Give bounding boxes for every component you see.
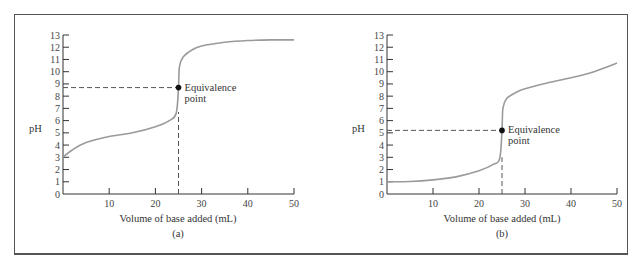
x-tick-label: 40 [566,198,576,209]
chart-b: 012345678910111213 1020304050 Equivalenc… [352,30,622,241]
y-tick-label: 2 [55,164,60,175]
x-tick-label: 30 [197,198,207,209]
y-tick-label: 8 [55,91,60,102]
x-tick-label: 50 [289,198,299,209]
equivalence-label-a-line2: point [185,93,207,104]
caption-a: (a) [172,228,184,240]
x-tick-label: 10 [428,198,438,209]
y-tick-label: 13 [374,30,384,41]
y-tick-label: 3 [379,152,384,163]
y-tick-label: 5 [55,127,60,138]
y-tick-label: 0 [55,189,60,200]
x-axis-title-b: Volume of base added (mL) [443,213,561,225]
chart-a: 012345678910111213 1020304050 Equivalenc… [29,30,299,241]
titration-curve-b [387,63,617,182]
y-tick-label: 6 [55,115,60,126]
y-tick-label: 11 [374,54,384,65]
titration-curves-figure: 012345678910111213 1020304050 Equivalenc… [0,0,643,267]
y-tick-label: 12 [50,42,60,53]
x-tick-label: 20 [150,198,160,209]
y-tick-label: 7 [55,103,60,114]
x-tick-label: 40 [243,198,253,209]
y-tick-label: 4 [55,140,60,151]
y-tick-label: 13 [50,30,60,41]
y-tick-label: 11 [50,54,60,65]
y-tick-label: 8 [379,91,384,102]
y-tick-label: 6 [379,115,384,126]
y-tick-label: 10 [50,66,60,77]
x-tick-label: 50 [612,198,622,209]
y-tick-label: 4 [379,140,384,151]
y-tick-label: 7 [379,103,384,114]
y-tick-label: 5 [379,127,384,138]
x-axis-title-a: Volume of base added (mL) [119,213,237,225]
y-tick-label: 2 [379,164,384,175]
titration-curve-a [63,40,294,157]
y-ticks-b: 012345678910111213 [374,30,393,200]
equivalence-label-b: Equivalence [508,124,560,135]
y-tick-label: 9 [55,78,60,89]
y-tick-label: 3 [55,152,60,163]
x-tick-label: 20 [474,198,484,209]
equivalence-point-marker-b [499,128,505,134]
y-axis-title-b: pH [352,123,365,134]
equivalence-point-marker-a [176,85,182,91]
caption-b: (b) [496,228,509,240]
y-tick-label: 10 [374,66,384,77]
y-axis-title-a: pH [29,123,42,134]
y-tick-label: 1 [379,176,384,187]
y-tick-label: 9 [379,78,384,89]
y-tick-label: 1 [55,176,60,187]
equivalence-label-b-line2: point [508,135,530,146]
x-ticks-a: 1020304050 [104,188,299,209]
x-ticks-b: 1020304050 [428,188,622,209]
equivalence-label-a: Equivalence [185,82,237,93]
y-tick-label: 12 [374,42,384,53]
x-tick-label: 30 [520,198,530,209]
y-ticks-a: 012345678910111213 [50,30,69,200]
y-tick-label: 0 [379,189,384,200]
x-tick-label: 10 [104,198,114,209]
